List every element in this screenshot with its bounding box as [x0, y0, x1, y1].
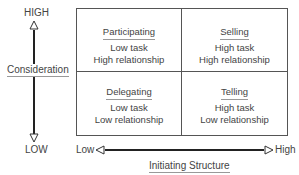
- arrow-up-icon: [30, 21, 38, 29]
- y-axis-high-label: HIGH: [24, 7, 49, 18]
- quadrant-relationship: High relationship: [77, 54, 181, 66]
- y-axis-title: Consideration: [7, 64, 69, 77]
- quadrant-relationship: Low relationship: [182, 114, 287, 126]
- quadrant-selling: Selling High task High relationship: [182, 9, 287, 72]
- quadrant-participating: Participating Low task High relationship: [77, 9, 182, 72]
- quadrant-title: Selling: [220, 26, 249, 40]
- quadrant-relationship: High relationship: [182, 54, 287, 66]
- arrow-down-icon: [30, 134, 38, 142]
- quadrant-telling: Telling High task Low relationship: [182, 72, 287, 135]
- quadrant-task: High task: [182, 42, 287, 54]
- quadrant-relationship: Low relationship: [77, 114, 181, 126]
- y-axis-low-label: LOW: [25, 144, 48, 155]
- quadrant-title: Participating: [103, 26, 155, 40]
- arrow-left-icon: [96, 146, 104, 154]
- quadrant-task: High task: [182, 102, 287, 114]
- quadrant-task: Low task: [77, 102, 181, 114]
- quadrant-title: Telling: [221, 86, 248, 100]
- x-axis-title: Initiating Structure: [149, 160, 230, 173]
- quadrant-delegating: Delegating Low task Low relationship: [77, 72, 182, 135]
- x-axis-low-label: Low: [76, 144, 94, 155]
- arrow-right-icon: [265, 146, 273, 154]
- leadership-grid: Participating Low task High relationship…: [76, 8, 288, 136]
- quadrant-title: Delegating: [106, 86, 151, 100]
- x-axis-high-label: High: [275, 144, 296, 155]
- quadrant-task: Low task: [77, 42, 181, 54]
